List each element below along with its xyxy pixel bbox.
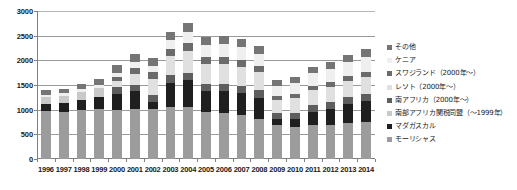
bar-group bbox=[290, 11, 300, 159]
bar-segment bbox=[130, 91, 140, 109]
x-tick-mark bbox=[304, 159, 305, 162]
bar-segment bbox=[219, 36, 229, 44]
bar-segment bbox=[361, 57, 371, 72]
legend-item-label: マダガスカル bbox=[395, 123, 436, 130]
legend-item[interactable]: レソト（2000年～） bbox=[387, 81, 515, 94]
stacked-bar-chart: 050010001500200025003000 199619971998199… bbox=[0, 0, 517, 190]
bar-segment bbox=[326, 87, 336, 102]
bar-segment bbox=[272, 86, 282, 96]
x-axis-label: 1998 bbox=[74, 165, 90, 174]
x-axis-label: 2013 bbox=[340, 165, 356, 174]
bar-segment bbox=[166, 83, 176, 107]
bar-segment bbox=[166, 107, 176, 159]
legend-item[interactable]: 南部アフリカ関税同盟（～1999年） bbox=[387, 107, 515, 120]
bar-segment bbox=[219, 91, 229, 113]
bar-segment bbox=[201, 112, 211, 159]
legend-item[interactable]: その他 bbox=[387, 41, 515, 54]
bar-segment bbox=[166, 75, 176, 82]
x-axis-label: 2003 bbox=[162, 165, 178, 174]
legend-item[interactable]: 南アフリカ（2000年～） bbox=[387, 94, 515, 107]
bar-segment bbox=[77, 100, 87, 110]
bar-segment bbox=[237, 67, 247, 86]
bar-stack bbox=[308, 67, 318, 159]
bar-group bbox=[219, 11, 229, 159]
bar-stack bbox=[219, 36, 229, 159]
legend-item[interactable]: モーリシャス bbox=[387, 133, 515, 146]
bar-segment bbox=[201, 37, 211, 45]
bar-segment bbox=[326, 69, 336, 82]
plot-area-wrapper: 050010001500200025003000 bbox=[37, 11, 375, 159]
bar-segment bbox=[361, 122, 371, 159]
legend-swatch-icon bbox=[387, 137, 392, 142]
bar-segment bbox=[148, 58, 158, 66]
bar-segment bbox=[219, 84, 229, 91]
bar-segment bbox=[290, 119, 300, 128]
bar-segment bbox=[41, 97, 51, 104]
bar-segment bbox=[148, 66, 158, 73]
x-tick-mark bbox=[179, 159, 180, 162]
bar-segment bbox=[201, 84, 211, 91]
bar-group bbox=[308, 11, 318, 159]
x-axis-label: 2007 bbox=[234, 165, 250, 174]
bar-segment bbox=[148, 95, 158, 102]
bar-segment bbox=[219, 113, 229, 159]
legend-item-label: レソト（2000年～） bbox=[395, 84, 460, 91]
legend-item-label: その他 bbox=[395, 44, 415, 51]
bar-segment bbox=[59, 112, 69, 159]
bar-segment bbox=[237, 86, 247, 93]
x-axis-label: 2004 bbox=[180, 165, 196, 174]
bar-segment bbox=[148, 79, 158, 95]
bar-group bbox=[343, 11, 353, 159]
bar-group bbox=[166, 11, 176, 159]
bar-group bbox=[254, 11, 264, 159]
bar-segment bbox=[343, 104, 353, 124]
bar-stack bbox=[201, 37, 211, 159]
bar-stack bbox=[77, 84, 87, 159]
legend-item[interactable]: ケニア bbox=[387, 54, 515, 67]
bar-segment bbox=[308, 67, 318, 74]
bar-segment bbox=[308, 90, 318, 105]
bar-segment bbox=[219, 44, 229, 57]
bar-group bbox=[77, 11, 87, 159]
bar-segment bbox=[326, 125, 336, 159]
bar-segment bbox=[41, 111, 51, 159]
bar-segment bbox=[272, 100, 282, 114]
x-tick-mark bbox=[108, 159, 109, 162]
bar-segment bbox=[59, 96, 69, 103]
bar-stack bbox=[59, 89, 69, 160]
bar-group bbox=[112, 11, 122, 159]
x-tick-mark bbox=[322, 159, 323, 162]
x-axis-label: 2005 bbox=[198, 165, 214, 174]
y-axis-tick-label: 500 bbox=[21, 130, 33, 139]
bar-group bbox=[237, 11, 247, 159]
x-tick-mark bbox=[55, 159, 56, 162]
x-tick-mark bbox=[90, 159, 91, 162]
bar-group bbox=[41, 11, 51, 159]
bar-segment bbox=[166, 40, 176, 49]
legend-item[interactable]: マダガスカル bbox=[387, 120, 515, 133]
bar-segment bbox=[112, 110, 122, 159]
x-axis-label: 2001 bbox=[127, 165, 143, 174]
bar-segment bbox=[94, 109, 104, 159]
bar-segment bbox=[183, 107, 193, 159]
legend-item[interactable]: スワジランド（2000年～） bbox=[387, 67, 515, 80]
y-axis-tick-label: 3000 bbox=[17, 7, 33, 16]
bar-stack bbox=[254, 46, 264, 159]
bar-segment bbox=[201, 91, 211, 112]
x-tick-mark bbox=[73, 159, 74, 162]
bar-segment bbox=[94, 97, 104, 109]
x-axis-label: 1999 bbox=[91, 165, 107, 174]
bar-segment bbox=[343, 62, 353, 76]
legend-item-label: スワジランド（2000年～） bbox=[395, 70, 480, 77]
x-tick-mark bbox=[37, 159, 38, 162]
bar-segment bbox=[326, 62, 336, 69]
bar-segment bbox=[130, 85, 140, 92]
bar-stack bbox=[148, 58, 158, 159]
bar-segment bbox=[254, 98, 264, 119]
x-axis-label: 1996 bbox=[38, 165, 54, 174]
bar-segment bbox=[237, 47, 247, 60]
bar-group bbox=[183, 11, 193, 159]
x-tick-mark bbox=[215, 159, 216, 162]
bar-segment bbox=[148, 109, 158, 159]
bar-segment bbox=[166, 56, 176, 75]
